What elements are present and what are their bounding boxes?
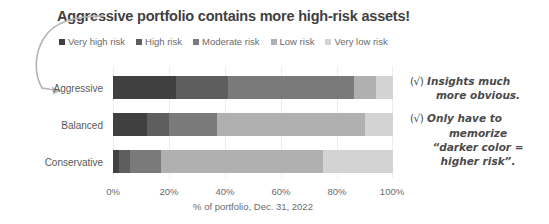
x-tick-label: 80% (327, 186, 346, 197)
annotation-text: Insights much (427, 75, 510, 87)
bar-segment (217, 113, 365, 136)
bar-segment (130, 150, 161, 173)
bar-segment (113, 113, 147, 136)
x-axis-title: % of portfolio, Dec. 31, 2022 (113, 201, 393, 212)
legend-swatch-icon (193, 39, 199, 45)
annotation-line: (√) Insights much (410, 74, 546, 88)
annotation-memorize: (√) Only have to memorize “darker color … (410, 111, 546, 168)
legend-label: Moderate risk (202, 37, 260, 47)
check-icon: (√) (410, 75, 423, 87)
table-row (113, 113, 393, 136)
annotation-line: (√) Only have to (410, 111, 546, 125)
x-tick-label: 40% (215, 186, 234, 197)
legend-item-very-low-risk: Very low risk (325, 37, 387, 47)
bar-segment (161, 150, 323, 173)
annotation-line: “darker color = (410, 140, 546, 154)
bar-segment (176, 76, 228, 99)
bar-segment (365, 113, 393, 136)
legend-swatch-icon (325, 39, 331, 45)
bar-segment (147, 113, 169, 136)
x-tick-label: 60% (271, 186, 290, 197)
legend-item-high-risk: High risk (136, 37, 182, 47)
bar-segment (228, 76, 354, 99)
annotation-insights: (√) Insights much more obvious. (410, 74, 546, 102)
legend-label: Very low risk (334, 37, 387, 47)
annotation-line: memorize (410, 126, 546, 140)
x-axis: 0% 20% 40% 60% 80% 100% (113, 186, 393, 200)
bar-segment (376, 76, 393, 99)
category-axis: Aggressive Balanced Conservative (0, 66, 108, 178)
legend-item-moderate-risk: Moderate risk (193, 37, 260, 47)
x-tick-label: 0% (106, 186, 120, 197)
bar-segment (113, 76, 176, 99)
bar-segment (354, 76, 376, 99)
legend-swatch-icon (136, 39, 142, 45)
annotation-group: (√) Insights much more obvious. (√) Only… (410, 74, 546, 177)
chart-figure: Aggressive portfolio contains more high-… (0, 0, 549, 224)
bars-area (113, 66, 393, 178)
annotation-line: higher risk”. (410, 154, 546, 168)
bar-segment (169, 113, 217, 136)
annotation-text: Only have to (427, 112, 502, 124)
plot-area: Aggressive Balanced Conservative (0, 66, 420, 186)
legend-swatch-icon (271, 39, 277, 45)
legend-label: High risk (145, 37, 182, 47)
bar-segment (119, 150, 130, 173)
table-row (113, 76, 393, 99)
x-tick-label: 20% (159, 186, 178, 197)
legend-item-very-high-risk: Very high risk (59, 37, 125, 47)
legend-label: Very high risk (68, 37, 125, 47)
check-icon: (√) (410, 112, 423, 124)
legend-item-low-risk: Low risk (271, 37, 315, 47)
table-row (113, 150, 393, 173)
legend-label: Low risk (280, 37, 315, 47)
x-tick-label: 100% (380, 186, 404, 197)
bar-segment (323, 150, 393, 173)
category-label-balanced: Balanced (61, 120, 103, 131)
annotation-line: more obvious. (410, 88, 546, 102)
chart-legend: Very high risk High risk Moderate risk L… (59, 37, 388, 47)
category-label-conservative: Conservative (45, 157, 103, 168)
category-label-aggressive: Aggressive (54, 83, 103, 94)
legend-swatch-icon (59, 39, 65, 45)
